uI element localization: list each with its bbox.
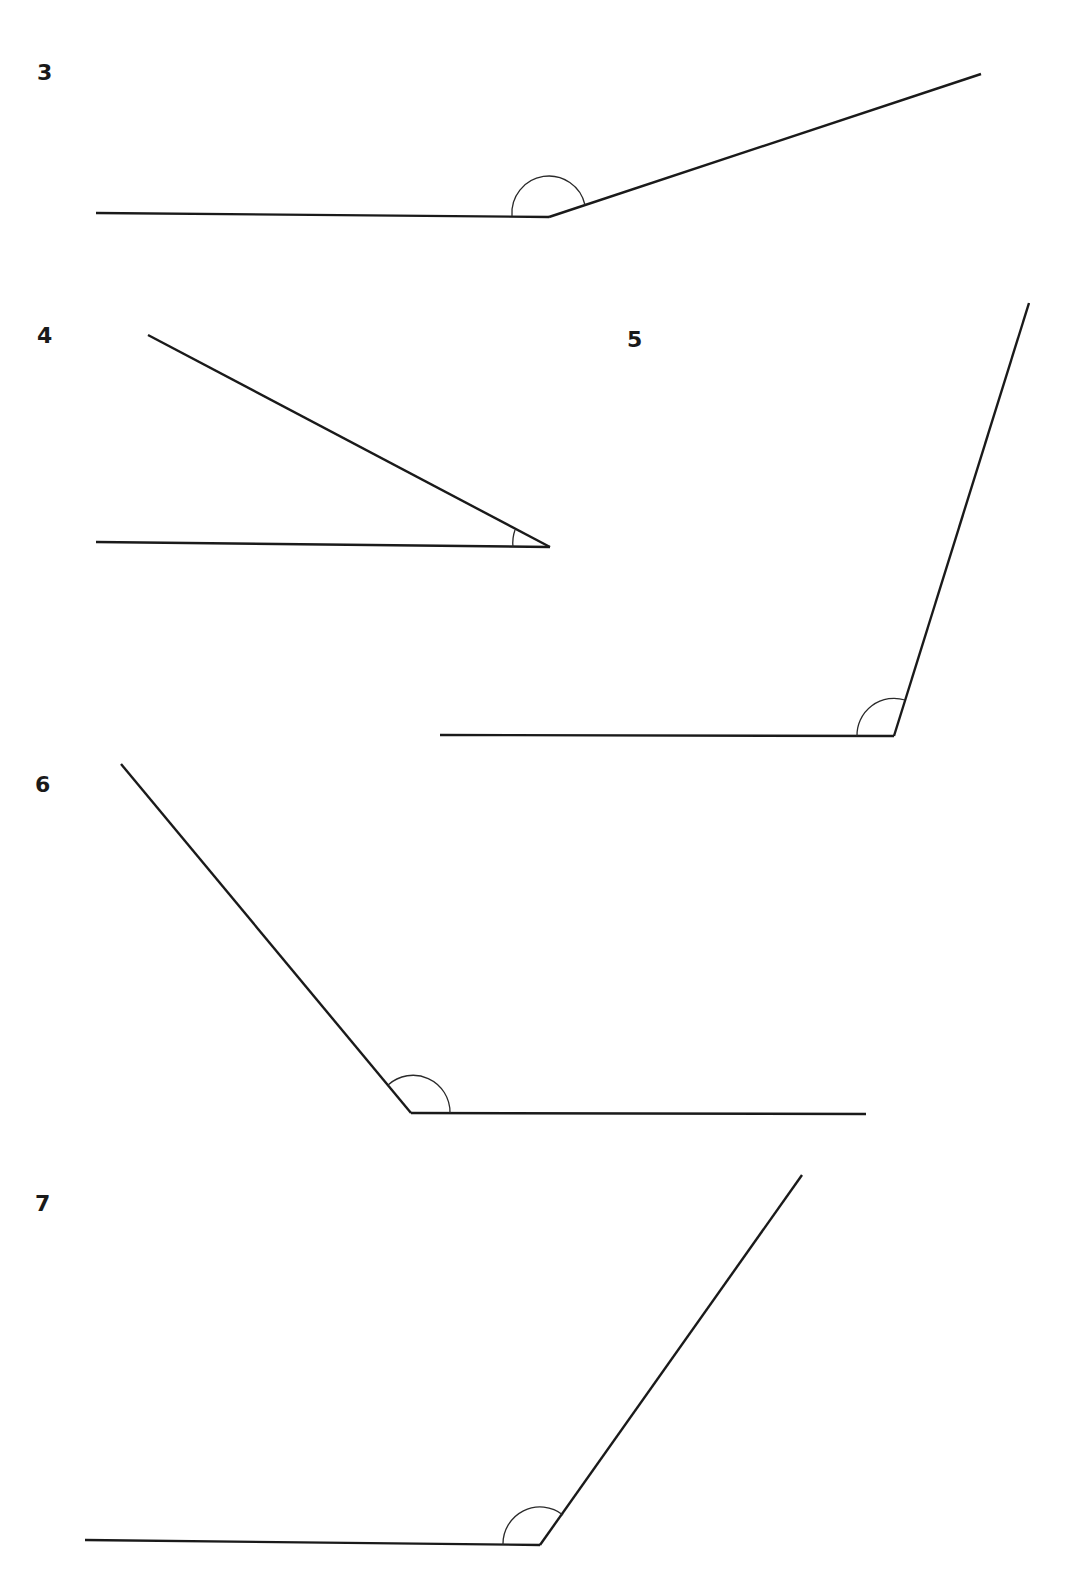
angle-7: [85, 1175, 802, 1545]
angle-4-arc-marker: [513, 530, 515, 547]
angle-5-arc-marker: [857, 698, 905, 736]
angle-3: [96, 74, 981, 217]
angle-6-arc-marker: [388, 1075, 450, 1113]
angle-6-arm-horizontal: [411, 1113, 866, 1114]
angle-diagram-canvas: [0, 0, 1065, 1574]
angle-6-arm-slanted: [121, 764, 411, 1113]
angle-label-7: 7: [35, 1193, 50, 1215]
angle-6: [121, 764, 866, 1114]
angle-7-arm-horizontal: [85, 1540, 540, 1545]
angle-3-arc-marker: [512, 176, 585, 216]
angle-5-arm-slanted: [894, 303, 1029, 736]
angle-4: [96, 335, 550, 547]
angle-label-3: 3: [37, 62, 52, 84]
angle-label-6: 6: [35, 774, 50, 796]
angle-7-arm-slanted: [540, 1175, 802, 1545]
angle-5: [440, 303, 1029, 736]
angle-label-5: 5: [627, 329, 642, 351]
angle-4-arm-slanted: [148, 335, 550, 547]
angle-label-4: 4: [37, 325, 52, 347]
angle-4-arm-horizontal: [96, 542, 550, 547]
angle-3-arm-slanted: [549, 74, 981, 217]
angle-3-arm-horizontal: [96, 213, 549, 217]
angle-5-arm-horizontal: [440, 735, 894, 736]
